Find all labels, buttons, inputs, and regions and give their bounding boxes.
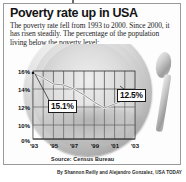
chart-svg: 16% 14% 12% 10% 0% (8, 44, 178, 164)
chart-y-axis-labels: 16% 14% 12% 10% 0% (18, 69, 31, 144)
x-tick-99: '99 (91, 143, 100, 149)
x-tick-97: '97 (70, 143, 79, 149)
y-tick-16: 16% (18, 69, 31, 75)
callout-start-value: 15.1% (48, 100, 77, 113)
byline: By Shannon Reilly and Alejandro Gonzalez… (0, 170, 186, 175)
x-tick-95: '95 (50, 143, 59, 149)
page-title: Poverty rate up in USA (10, 7, 176, 20)
y-tick-10: 10% (18, 123, 31, 129)
callout-end-value: 12.5% (117, 89, 146, 102)
x-tick-01: '01 (111, 143, 120, 149)
headline-block: Poverty rate up in USA The poverty rate … (10, 7, 176, 47)
infographic-page: Poverty rate up in USA The poverty rate … (0, 0, 186, 182)
poverty-rate-line-chart: 16% 14% 12% 10% 0% (8, 44, 178, 164)
y-tick-14: 14% (18, 87, 31, 93)
source-label: Source: Census Bureau (51, 156, 114, 162)
x-tick-93: '93 (30, 143, 39, 149)
chart-x-axis-labels: '93 '95 '97 '99 '01 '03 (30, 143, 140, 149)
y-tick-12: 12% (18, 105, 31, 111)
x-tick-03: '03 (131, 143, 140, 149)
infographic-card: Poverty rate up in USA The poverty rate … (3, 3, 181, 165)
